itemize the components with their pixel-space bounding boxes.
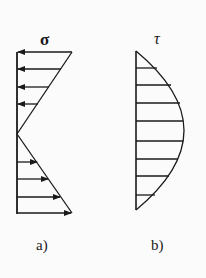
tau-label: τ bbox=[154, 30, 160, 48]
sigma-label: σ bbox=[40, 30, 49, 50]
caption-a: a) bbox=[36, 237, 48, 254]
normal-stress-diagram bbox=[17, 52, 72, 214]
caption-b: b) bbox=[151, 237, 164, 254]
stress-diagram bbox=[0, 0, 206, 278]
shear-stress-diagram bbox=[136, 51, 184, 210]
